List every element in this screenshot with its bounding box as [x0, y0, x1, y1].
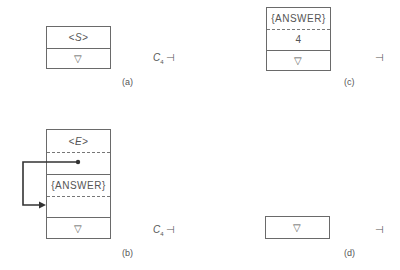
caption-b: (b)	[122, 248, 133, 258]
pointer-arrow-icon	[0, 0, 400, 270]
bottom-marker-icon: ▽	[266, 217, 329, 238]
caption-d: (d)	[344, 248, 355, 258]
stack-d: ▽	[265, 216, 330, 239]
state-d: ⊣	[375, 224, 384, 235]
end-marker-icon: ⊣	[166, 224, 175, 235]
end-marker-icon: ⊣	[375, 224, 384, 235]
state-b: C4 ⊣	[153, 224, 175, 237]
